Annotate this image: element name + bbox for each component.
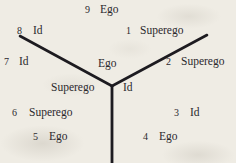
label-number-1: 1 xyxy=(126,26,131,36)
label-term-1: Superego xyxy=(140,25,183,37)
label-term-5: Ego xyxy=(49,131,68,143)
label-term-4: Ego xyxy=(159,131,178,143)
diagram-canvas: 9 Ego 8 Id 1 Superego 7 Id Ego 2 Supereg… xyxy=(0,0,236,163)
label-term-6: Superego xyxy=(29,107,72,119)
label-number-5: 5 xyxy=(33,132,38,142)
sector-label-right-id: Id xyxy=(123,82,133,94)
label-term-8: Id xyxy=(33,25,43,37)
label-number-7: 7 xyxy=(4,57,9,67)
label-number-3: 3 xyxy=(174,108,179,118)
sector-label-top-ego: Ego xyxy=(98,58,117,70)
label-term-3: Id xyxy=(190,107,200,119)
label-number-4: 4 xyxy=(143,132,148,142)
label-term-9: Ego xyxy=(100,4,119,16)
sector-label-left-superego: Superego xyxy=(51,82,94,94)
label-number-6: 6 xyxy=(12,108,17,118)
label-number-8: 8 xyxy=(17,26,22,36)
label-term-7: Id xyxy=(19,56,29,68)
label-term-2: Superego xyxy=(181,56,224,68)
label-number-9: 9 xyxy=(85,5,90,15)
label-number-2: 2 xyxy=(166,57,171,67)
